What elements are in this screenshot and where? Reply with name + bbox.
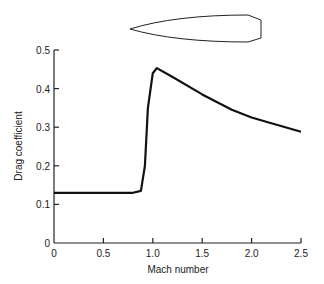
svg-text:0.1: 0.1 [36, 199, 50, 210]
drag-curve [54, 68, 301, 193]
svg-text:0.4: 0.4 [36, 84, 50, 95]
svg-text:2.0: 2.0 [245, 248, 259, 259]
svg-text:0.5: 0.5 [36, 45, 50, 56]
y-axis-label: Drag coefficient [13, 111, 24, 181]
svg-text:1.0: 1.0 [146, 248, 160, 259]
svg-text:1.5: 1.5 [195, 248, 209, 259]
chart-svg: 00.10.20.30.40.5 00.51.01.52.02.5 Mach n… [0, 0, 324, 284]
projectile-icon [130, 15, 261, 42]
x-tick-labels: 00.51.01.52.02.5 [51, 248, 308, 259]
svg-text:2.5: 2.5 [294, 248, 308, 259]
svg-text:0: 0 [44, 238, 50, 249]
x-axis-label: Mach number [147, 264, 209, 275]
svg-text:0: 0 [51, 248, 57, 259]
svg-text:0.5: 0.5 [96, 248, 110, 259]
y-tick-labels: 00.10.20.30.40.5 [36, 45, 50, 249]
svg-text:0.2: 0.2 [36, 161, 50, 172]
svg-text:0.3: 0.3 [36, 122, 50, 133]
chart: 00.10.20.30.40.5 00.51.01.52.02.5 Mach n… [0, 0, 324, 284]
